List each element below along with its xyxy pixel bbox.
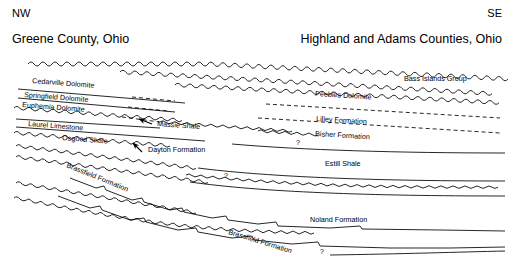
header-location-right: Highland and Adams Counties, Ohio (300, 32, 502, 46)
query-marker-estill: ? (224, 172, 228, 179)
label-estill-shale: Estill Shale (325, 159, 361, 168)
label-noland-formation: Noland Formation (310, 215, 367, 224)
label-dayton-formation: Dayton Formation (148, 145, 205, 154)
figure-canvas: NW Greene County, Ohio SE Highland and A… (0, 0, 514, 272)
query-marker-noland: ? (320, 248, 324, 255)
label-bass-islands-group: Bass Islands Group (404, 74, 467, 83)
query-marker-bisher: ? (296, 139, 300, 146)
header-direction-se: SE (487, 7, 502, 19)
cross-section-svg: NW Greene County, Ohio SE Highland and A… (0, 0, 514, 272)
header-location-left: Greene County, Ohio (12, 32, 129, 46)
header-direction-nw: NW (12, 7, 31, 19)
